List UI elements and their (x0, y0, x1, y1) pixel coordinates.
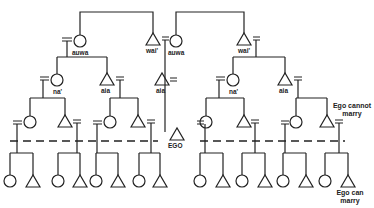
female-icon (236, 175, 248, 187)
descent-line (206, 80, 244, 116)
female-icon (90, 175, 102, 187)
female-icon-na-right (227, 74, 239, 86)
marriage-mark (73, 120, 81, 123)
label-wai-left: wai' (146, 47, 158, 54)
descent-line (58, 123, 80, 175)
marriage-mark (147, 120, 155, 123)
top-right-sibling-line (176, 12, 244, 35)
descent-line (242, 123, 265, 175)
female-icon (104, 116, 116, 128)
label-ego: EGO (168, 142, 182, 149)
female-icon (24, 116, 36, 128)
male-icon (73, 175, 87, 187)
label-wai-right: wai' (238, 47, 250, 54)
male-icon-wai-left (146, 33, 160, 45)
descent-line (283, 124, 306, 175)
female-icon-auwa-right (170, 35, 182, 47)
male-icon-wai-right (237, 33, 251, 45)
male-icon (216, 175, 230, 187)
label-aia-right: aia (279, 87, 288, 94)
male-icon (26, 175, 40, 187)
marriage-mark (216, 77, 225, 80)
male-icon (237, 115, 251, 127)
female-icon (319, 175, 331, 187)
marriage-mark (335, 120, 343, 123)
note-line: marry (328, 197, 372, 205)
male-icon (111, 175, 125, 187)
marriage-mark (162, 37, 169, 40)
descent-line (96, 124, 118, 175)
label-auwa-left: auwa (72, 49, 88, 56)
female-icon (290, 116, 302, 128)
label-na-right: na' (229, 88, 238, 95)
marriage-mark (281, 121, 289, 124)
female-icon (200, 116, 212, 128)
label-aia-middle: aia (156, 87, 165, 94)
marriage-mark (294, 77, 302, 80)
male-icon-aia-middle (155, 73, 169, 85)
female-icon (194, 175, 206, 187)
female-icon-na-left (51, 74, 63, 86)
descent-line (325, 123, 348, 175)
kinship-diagram: auwa wai' auwa wai' na' aia aia na' aia … (0, 0, 374, 208)
male-icon (131, 115, 145, 127)
descent-line (10, 124, 33, 175)
female-icon (52, 175, 64, 187)
male-icon-aia-right (278, 73, 292, 85)
female-icon (133, 175, 145, 187)
note-line: Ego can (328, 189, 372, 197)
descent-line (57, 41, 107, 74)
descent-line (200, 124, 223, 175)
female-icon (277, 175, 289, 187)
marriage-mark (40, 77, 49, 80)
marriage-mark (62, 38, 72, 41)
note-line: Ego cannot (330, 102, 374, 110)
note-ego-can-marry: Ego can marry (328, 189, 372, 205)
female-icon (4, 175, 16, 187)
male-icon (299, 175, 313, 187)
marriage-mark (253, 37, 260, 40)
top-left-sibling-line (80, 12, 153, 35)
ego-icon (170, 128, 184, 140)
note-ego-cannot-marry: Ego cannot marry (330, 102, 374, 118)
male-icon (58, 115, 72, 127)
male-icon-aia-left (100, 73, 114, 85)
kinship-lines (0, 0, 374, 208)
label-auwa-right: auwa (168, 49, 184, 56)
male-icon (153, 175, 167, 187)
female-icon-auwa-left (74, 35, 86, 47)
marriage-mark (116, 77, 124, 80)
marriage-mark (170, 78, 177, 81)
marriage-mark (251, 120, 259, 123)
label-aia-left: aia (101, 87, 110, 94)
male-icon (341, 175, 355, 187)
descent-line (296, 80, 327, 116)
marriage-mark (93, 121, 102, 124)
marriage-mark (13, 121, 22, 124)
male-icon (258, 175, 272, 187)
label-na-left: na' (53, 88, 62, 95)
descent-line (139, 123, 160, 175)
note-line: marry (330, 110, 374, 118)
